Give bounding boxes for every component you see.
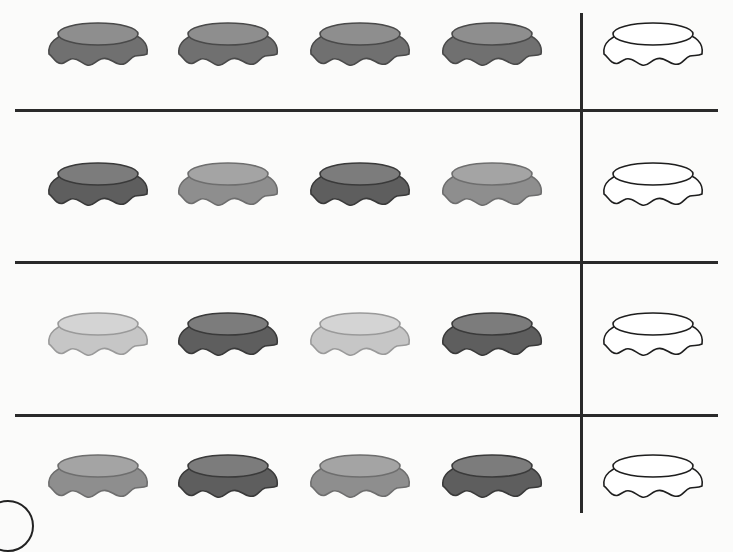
answer-tablecloth-to-color[interactable] <box>598 158 708 218</box>
tablecloth-medium <box>43 450 153 510</box>
pattern-row-4 <box>0 450 733 550</box>
tablecloth-dark <box>173 308 283 368</box>
row-divider-2 <box>15 261 718 264</box>
tablecloth-medium-dark <box>43 18 153 78</box>
pattern-row-3 <box>0 308 733 408</box>
tablecloth-dark <box>437 450 547 510</box>
tablecloth-medium-dark <box>305 18 415 78</box>
tablecloth-medium-dark <box>437 18 547 78</box>
tablecloth-medium-dark <box>173 18 283 78</box>
row-divider-3 <box>15 414 718 417</box>
pattern-row-1 <box>0 18 733 118</box>
tablecloth-dark <box>437 308 547 368</box>
tablecloth-light <box>43 308 153 368</box>
answer-tablecloth-to-color[interactable] <box>598 450 708 510</box>
tablecloth-medium <box>305 450 415 510</box>
tablecloth-medium <box>173 158 283 218</box>
tablecloth-medium <box>437 158 547 218</box>
answer-tablecloth-to-color[interactable] <box>598 308 708 368</box>
tablecloth-dark <box>43 158 153 218</box>
tablecloth-dark <box>305 158 415 218</box>
answer-tablecloth-to-color[interactable] <box>598 18 708 78</box>
pattern-row-2 <box>0 158 733 258</box>
tablecloth-light <box>305 308 415 368</box>
tablecloth-dark <box>173 450 283 510</box>
